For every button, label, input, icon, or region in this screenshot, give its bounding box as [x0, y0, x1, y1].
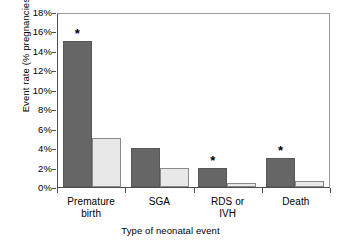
bar-group: * — [261, 14, 329, 187]
y-axis-tick-label: 0% — [24, 183, 52, 193]
bar-dark[interactable]: * — [63, 41, 92, 187]
bar-groups: *** — [58, 14, 329, 187]
plot-area: *** — [57, 13, 330, 188]
y-axis-tick-mark — [52, 130, 56, 131]
y-axis-tick-mark — [52, 110, 56, 111]
y-axis-tick-label: 12% — [24, 66, 52, 76]
category-label-line: RDS or — [194, 196, 262, 208]
bar-light[interactable] — [295, 181, 324, 187]
x-axis-tick-mark — [330, 188, 331, 193]
y-axis-tick-label: 14% — [24, 47, 52, 57]
bar-light[interactable] — [227, 183, 256, 187]
x-axis-tick-mark — [57, 188, 58, 193]
y-axis-tick-mark — [52, 52, 56, 53]
x-axis-tick-mark — [262, 188, 263, 193]
y-axis-tick-label: 4% — [24, 144, 52, 154]
bar-dark[interactable]: * — [198, 168, 227, 187]
bar-group: * — [58, 14, 126, 187]
bar-light[interactable] — [160, 168, 189, 187]
category-label-line: Death — [262, 196, 330, 208]
x-axis-category-label: Death — [262, 196, 330, 219]
y-axis-tick-label: 10% — [24, 86, 52, 96]
x-axis-category-labels: PrematurebirthSGARDS orIVHDeath — [57, 196, 330, 219]
y-axis-tick-mark — [52, 32, 56, 33]
bar-dark[interactable]: * — [266, 158, 295, 187]
significance-asterisk: * — [64, 27, 91, 40]
category-label-line: SGA — [125, 196, 193, 208]
x-axis-title: Type of neonatal event — [0, 226, 341, 236]
bar-group: * — [194, 14, 262, 187]
y-axis-tick-labels: 0%2%4%6%8%10%12%14%16%18% — [18, 0, 52, 241]
significance-asterisk: * — [267, 144, 294, 157]
bar-dark[interactable] — [131, 148, 160, 187]
y-axis-tick-mark — [52, 91, 56, 92]
y-axis-tick-mark — [52, 169, 56, 170]
y-axis-tick-mark — [52, 71, 56, 72]
bar-chart-figure: Event rate (% pregnancies) 0%2%4%6%8%10%… — [0, 0, 341, 241]
y-axis-tick-mark — [52, 13, 56, 14]
y-axis-tick-label: 2% — [24, 164, 52, 174]
y-axis-tick-label: 8% — [24, 105, 52, 115]
x-axis-tick-marks — [57, 188, 330, 194]
x-axis-category-label: RDS orIVH — [194, 196, 262, 219]
x-axis-category-label: SGA — [125, 196, 193, 219]
significance-asterisk: * — [199, 154, 226, 167]
category-label-line: birth — [57, 208, 125, 220]
y-axis-tick-label: 18% — [24, 8, 52, 18]
bar-light[interactable] — [92, 138, 121, 187]
category-label-line: IVH — [194, 208, 262, 220]
category-label-line: Premature — [57, 196, 125, 208]
y-axis-tick-mark — [52, 188, 56, 189]
bar-group — [126, 14, 194, 187]
y-axis-tick-label: 6% — [24, 125, 52, 135]
x-axis-tick-mark — [194, 188, 195, 193]
x-axis-category-label: Prematurebirth — [57, 196, 125, 219]
x-axis-tick-mark — [125, 188, 126, 193]
y-axis-tick-mark — [52, 149, 56, 150]
y-axis-tick-label: 16% — [24, 27, 52, 37]
